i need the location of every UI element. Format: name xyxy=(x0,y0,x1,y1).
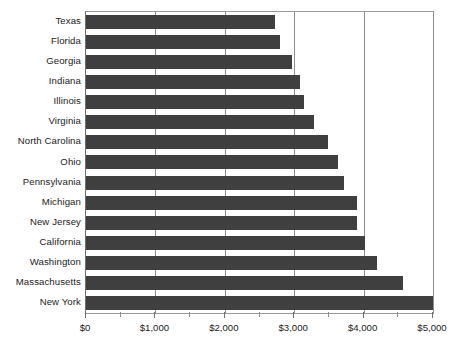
bar-row xyxy=(86,293,433,313)
bar xyxy=(86,276,403,290)
category-label: Massachusetts xyxy=(0,277,81,287)
bar xyxy=(86,135,328,149)
category-label: Illinois xyxy=(0,96,81,106)
axis-tick-major xyxy=(432,312,433,318)
category-label: Texas xyxy=(0,16,81,26)
bar-row xyxy=(86,12,433,32)
axis-tick-label: $3,000 xyxy=(279,322,308,333)
category-label: Virginia xyxy=(0,116,81,126)
bar xyxy=(86,216,357,230)
bar xyxy=(86,256,377,270)
bar xyxy=(86,236,365,250)
axis-tick-label: $0 xyxy=(80,322,91,333)
axis-tick-label: $5,000 xyxy=(417,322,446,333)
category-label: Florida xyxy=(0,36,81,46)
axis-tick-major xyxy=(293,312,294,318)
plot-inner xyxy=(86,12,433,313)
category-label: Georgia xyxy=(0,56,81,66)
category-label: Washington xyxy=(0,257,81,267)
bar xyxy=(86,196,357,210)
bar-row xyxy=(86,173,433,193)
axis-tick-major xyxy=(85,312,86,318)
category-label: New York xyxy=(0,297,81,307)
bar xyxy=(86,296,433,310)
axis-tick-label: $4,000 xyxy=(348,322,377,333)
bar-row xyxy=(86,152,433,172)
category-label: Michigan xyxy=(0,197,81,207)
category-label: California xyxy=(0,237,81,247)
bar xyxy=(86,75,300,89)
gridline xyxy=(433,12,434,313)
category-label: North Carolina xyxy=(0,136,81,146)
value-axis: $0$1,000$2,000$3,000$4,000$5,000 xyxy=(85,312,433,348)
bar-row xyxy=(86,72,433,92)
bar-row xyxy=(86,112,433,132)
bar-row xyxy=(86,52,433,72)
bar-row xyxy=(86,233,433,253)
plot-area xyxy=(85,11,434,314)
category-label: Ohio xyxy=(0,157,81,167)
axis-tick-label: $2,000 xyxy=(209,322,238,333)
axis-tick-major xyxy=(154,312,155,318)
axis-tick-minor xyxy=(120,312,121,317)
category-label: New Jersey xyxy=(0,217,81,227)
bar xyxy=(86,155,338,169)
axis-tick-label: $1,000 xyxy=(140,322,169,333)
category-label: Indiana xyxy=(0,76,81,86)
bar-row xyxy=(86,92,433,112)
axis-tick-major xyxy=(224,312,225,318)
bar-row xyxy=(86,253,433,273)
bar xyxy=(86,95,304,109)
bar-row xyxy=(86,213,433,233)
axis-tick-minor xyxy=(259,312,260,317)
bar xyxy=(86,55,292,69)
axis-tick-minor xyxy=(189,312,190,317)
bar-row xyxy=(86,32,433,52)
bar xyxy=(86,15,275,29)
bar xyxy=(86,35,280,49)
bar-row xyxy=(86,273,433,293)
category-axis-labels: TexasFloridaGeorgiaIndianaIllinoisVirgin… xyxy=(0,11,81,312)
bar-row xyxy=(86,193,433,213)
axis-tick-minor xyxy=(328,312,329,317)
bar-row xyxy=(86,132,433,152)
bar xyxy=(86,176,344,190)
category-label: Pennsylvania xyxy=(0,177,81,187)
bar xyxy=(86,115,314,129)
axis-tick-major xyxy=(363,312,364,318)
bar-chart: TexasFloridaGeorgiaIndianaIllinoisVirgin… xyxy=(0,0,470,348)
axis-tick-minor xyxy=(397,312,398,317)
